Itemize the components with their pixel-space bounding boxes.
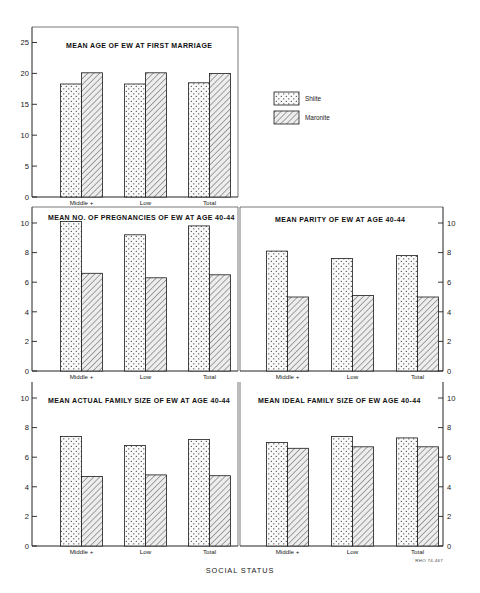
- panel-4-ytick-3: 6: [25, 453, 29, 462]
- panel-2-bar-maronite-low: [146, 278, 167, 371]
- panel-3-xlabel-low: Low: [347, 373, 359, 380]
- panel-3-bar-maronite-low: [353, 296, 374, 372]
- panel-4-ytick-1: 2: [25, 512, 29, 521]
- panel-1-bar-shiite-total: [189, 83, 210, 197]
- document-code: RHO 74-467: [415, 558, 443, 563]
- panel-3-bar-shiite-total: [397, 256, 418, 372]
- panel-4-bar-shiite-low: [125, 445, 146, 546]
- panel-1-title: MEAN AGE OF EW AT FIRST MARRIAGE: [66, 42, 212, 49]
- panel-1-xlabel-total: Total: [203, 199, 216, 206]
- panel-1-bar-shiite-low: [125, 84, 146, 197]
- panel-5-ytick-1: 2: [447, 512, 451, 521]
- panel-4-xlabel-middle: Middle +: [70, 548, 94, 555]
- panel-4-bar-shiite-total: [189, 439, 210, 546]
- panel-2-y-ticks: 0 2 4 6 8 10: [21, 219, 37, 376]
- panel-1-ytick-3: 15: [21, 100, 29, 109]
- panel-5-bar-maronite-total: [418, 447, 439, 546]
- panel-2-title: MEAN NO. OF PREGNANCIES OF EW AT AGE 40-…: [48, 214, 235, 221]
- panel-2-ytick-0: 0: [25, 367, 29, 376]
- panel-4-ytick-2: 4: [25, 483, 29, 492]
- panel-1-ytick-2: 10: [21, 131, 29, 140]
- panel-1-y-ticks: 0 5 10 15 20 25: [21, 38, 37, 202]
- panel-4-title: MEAN ACTUAL FAMILY SIZE OF EW AT AGE 40-…: [48, 397, 230, 404]
- panel-3-ytick-4: 8: [447, 248, 451, 257]
- panel-2-xlabel-total: Total: [203, 373, 216, 380]
- panel-5-ytick-2: 4: [447, 483, 451, 492]
- panel-1-mean-age-first-marriage: 0 5 10 15 20 25 MEAN AGE OF EW AT FIRST …: [21, 27, 238, 206]
- panel-1-xlabel-middle: Middle +: [70, 199, 94, 206]
- multi-panel-bar-chart: 0 5 10 15 20 25 MEAN AGE OF EW AT FIRST …: [0, 0, 480, 593]
- legend-label-maronite: Maronite: [305, 114, 330, 121]
- panel-4-ytick-4: 8: [25, 423, 29, 432]
- panel-3-ytick-0: 0: [447, 367, 451, 376]
- panel-4-bar-maronite-middle: [82, 476, 103, 546]
- panel-2-ytick-4: 8: [25, 248, 29, 257]
- panel-2-xlabel-low: Low: [140, 373, 152, 380]
- panel-2-bar-shiite-middle: [61, 222, 82, 372]
- panel-4-mean-actual-family-size: 0 2 4 6 8 10 MEAN ACTUAL FAMILY SIZE OF …: [21, 382, 238, 555]
- panel-5-ytick-3: 6: [447, 453, 451, 462]
- panel-2-mean-pregnancies: 0 2 4 6 8 10 MEAN NO. OF PREGNANCIES OF …: [21, 207, 238, 380]
- panel-2-ytick-2: 4: [25, 308, 29, 317]
- panel-3-ytick-1: 2: [447, 337, 451, 346]
- panel-4-bar-shiite-middle: [61, 437, 82, 547]
- panel-2-bar-shiite-low: [125, 235, 146, 371]
- legend-label-shiite: Shiite: [305, 95, 321, 102]
- panel-4-ytick-0: 0: [25, 542, 29, 551]
- x-axis-caption: SOCIAL STATUS: [206, 566, 275, 575]
- panel-3-title: MEAN PARITY OF EW AT AGE 40-44: [275, 216, 405, 223]
- panel-5-bar-shiite-total: [397, 438, 418, 546]
- panel-3-bar-maronite-total: [418, 297, 439, 371]
- panel-4-bar-maronite-low: [146, 475, 167, 546]
- panel-2-ytick-1: 2: [25, 337, 29, 346]
- panel-1-bar-maronite-low: [146, 73, 167, 197]
- panel-1-ytick-5: 25: [21, 38, 29, 47]
- panel-4-xlabel-low: Low: [140, 548, 152, 555]
- legend-swatch-maronite: [274, 111, 299, 124]
- panel-5-bar-shiite-middle: [267, 442, 288, 546]
- panel-3-y-ticks: 0 2 4 6 8 10: [438, 219, 455, 376]
- panel-3-xlabel-total: Total: [411, 373, 424, 380]
- panel-1-xlabel-low: Low: [140, 199, 152, 206]
- panel-5-bar-maronite-low: [353, 447, 374, 546]
- panel-2-bar-maronite-middle: [82, 273, 103, 371]
- panel-4-bar-maronite-total: [210, 476, 231, 546]
- panel-5-ytick-5: 10: [447, 394, 455, 403]
- panel-2-ytick-5: 10: [21, 219, 29, 228]
- panel-1-bar-maronite-middle: [82, 73, 103, 197]
- panel-2-ytick-3: 6: [25, 278, 29, 287]
- panel-3-bar-shiite-middle: [267, 251, 288, 371]
- panel-4-y-ticks: 0 2 4 6 8 10: [21, 394, 37, 551]
- panel-1-ytick-4: 20: [21, 69, 29, 78]
- panel-2-xlabel-middle: Middle +: [70, 373, 94, 380]
- figure-container: 0 5 10 15 20 25 MEAN AGE OF EW AT FIRST …: [0, 0, 480, 593]
- panel-5-ytick-0: 0: [447, 542, 451, 551]
- panel-5-title: MEAN IDEAL FAMILY SIZE OF EW AGE 40-44: [258, 397, 421, 404]
- legend: Shiite Maronite: [274, 92, 330, 124]
- panel-1-bar-shiite-middle: [61, 84, 82, 197]
- panel-2-bar-shiite-total: [189, 226, 210, 371]
- panel-3-bar-shiite-low: [332, 259, 353, 372]
- panel-3-mean-parity: 0 2 4 6 8 10 MEAN PARITY OF EW AT AGE 40…: [240, 207, 455, 380]
- panel-1-ytick-1: 5: [25, 162, 29, 171]
- panel-5-xlabel-low: Low: [347, 548, 359, 555]
- panel-3-ytick-3: 6: [447, 278, 451, 287]
- panel-4-ytick-5: 10: [21, 394, 29, 403]
- legend-swatch-shiite: [274, 92, 299, 105]
- panel-3-bar-maronite-middle: [288, 297, 309, 371]
- panel-5-mean-ideal-family-size: 0 2 4 6 8 10 MEAN IDEAL FAMILY SIZE OF E…: [240, 382, 455, 555]
- panel-3-ytick-5: 10: [447, 219, 455, 228]
- panel-3-xlabel-middle: Middle +: [276, 373, 300, 380]
- panel-5-bar-shiite-low: [332, 437, 353, 547]
- panel-5-xlabel-middle: Middle +: [276, 548, 300, 555]
- panel-4-xlabel-total: Total: [203, 548, 216, 555]
- panel-5-xlabel-total: Total: [411, 548, 424, 555]
- panel-2-bar-maronite-total: [210, 275, 231, 371]
- panel-3-ytick-2: 4: [447, 308, 451, 317]
- panel-5-ytick-4: 8: [447, 423, 451, 432]
- panel-5-bar-maronite-middle: [288, 448, 309, 546]
- panel-5-y-ticks: 0 2 4 6 8 10: [438, 394, 455, 551]
- panel-1-ytick-0: 0: [25, 193, 29, 202]
- panel-1-bar-maronite-total: [210, 73, 231, 197]
